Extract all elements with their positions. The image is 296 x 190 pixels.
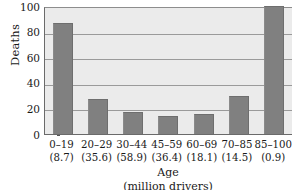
x-axis-tick-labels: 0–19(8.7)20–29(35.6)30–44(58.9)45–59(36.… bbox=[44, 138, 292, 168]
y-axis-tick-label: 60 bbox=[16, 53, 40, 64]
x-axis-tick-range: 60–69 bbox=[184, 138, 219, 151]
plot-area bbox=[44, 7, 292, 135]
x-axis-title: Age (million drivers) bbox=[44, 166, 292, 190]
x-axis-tick-label: 70–85(14.5) bbox=[219, 138, 254, 168]
x-axis-tick-count: (0.9) bbox=[254, 151, 292, 164]
bar-slot bbox=[257, 8, 292, 134]
x-axis-title-sublabel: (million drivers) bbox=[44, 180, 292, 190]
y-axis-tick-labels: 100806040200 bbox=[16, 0, 40, 190]
bar bbox=[229, 96, 249, 134]
bar-slot bbox=[116, 8, 151, 134]
bar-slot bbox=[45, 8, 80, 134]
x-axis-tick-label: 0–19(8.7) bbox=[44, 138, 79, 168]
bars-group bbox=[45, 8, 292, 134]
x-axis-tick-count: (35.6) bbox=[79, 151, 114, 164]
x-axis-tick-range: 70–85 bbox=[219, 138, 254, 151]
bar bbox=[88, 99, 108, 134]
x-axis-tick-range: 0–19 bbox=[44, 138, 79, 151]
x-axis-tick-label: 85–100(0.9) bbox=[254, 138, 292, 168]
x-axis-tick-range: 20–29 bbox=[79, 138, 114, 151]
bar bbox=[53, 23, 73, 134]
x-axis-tick-label: 20–29(35.6) bbox=[79, 138, 114, 168]
x-axis-tick-count: (14.5) bbox=[219, 151, 254, 164]
x-axis-tick-count: (18.1) bbox=[184, 151, 219, 164]
y-axis-tick-label: 20 bbox=[16, 104, 40, 115]
x-axis-tick-range: 85–100 bbox=[254, 138, 292, 151]
x-axis-title-main: Age bbox=[157, 166, 179, 179]
bar-slot bbox=[80, 8, 115, 134]
y-axis-tick-label: 40 bbox=[16, 78, 40, 89]
bar bbox=[264, 6, 284, 134]
x-axis-tick-count: (58.9) bbox=[114, 151, 149, 164]
x-axis-tick-label: 60–69(18.1) bbox=[184, 138, 219, 168]
y-axis-tick-label: 0 bbox=[16, 130, 40, 141]
x-axis-tick-label: 45–59(36.4) bbox=[149, 138, 184, 168]
bar bbox=[123, 112, 143, 134]
bar-chart-figure: Deaths 100806040200 0–19(8.7)20–29(35.6)… bbox=[0, 0, 296, 190]
y-axis-tick-label: 80 bbox=[16, 27, 40, 38]
bar-slot bbox=[186, 8, 221, 134]
y-axis-tick-mark bbox=[57, 135, 60, 136]
x-axis-tick-range: 30–44 bbox=[114, 138, 149, 151]
y-axis-tick-label: 100 bbox=[16, 2, 40, 13]
x-axis-tick-count: (36.4) bbox=[149, 151, 184, 164]
x-axis-tick-count: (8.7) bbox=[44, 151, 79, 164]
bar bbox=[158, 116, 178, 134]
x-axis-tick-range: 45–59 bbox=[149, 138, 184, 151]
bar bbox=[194, 114, 214, 134]
bar-slot bbox=[151, 8, 186, 134]
x-axis-tick-label: 30–44(58.9) bbox=[114, 138, 149, 168]
bar-slot bbox=[221, 8, 256, 134]
